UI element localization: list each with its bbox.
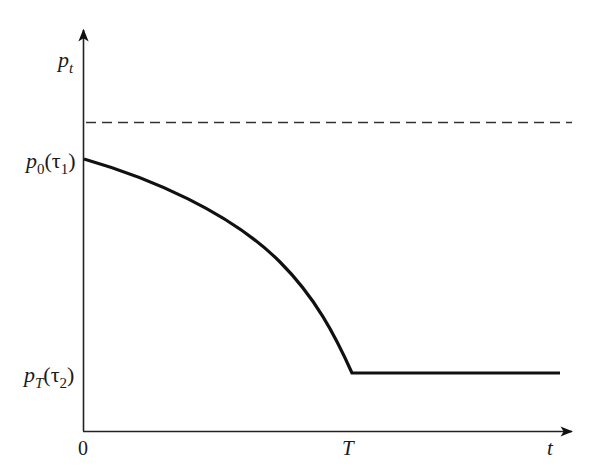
y-axis-label: pt xyxy=(56,47,74,76)
price-curve xyxy=(84,159,560,373)
origin-label: 0 xyxy=(78,437,88,459)
p0-tau1-label: p0(τ1) xyxy=(24,148,76,177)
pT-tau2-label: pT(τ2) xyxy=(22,362,74,391)
price-path-diagram: pt p0(τ1) pT(τ2) 0 T t xyxy=(0,0,596,476)
x-axis-label: t xyxy=(547,436,554,460)
T-label: T xyxy=(342,436,355,460)
